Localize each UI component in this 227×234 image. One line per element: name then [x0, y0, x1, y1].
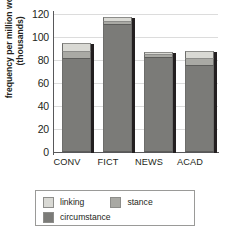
legend-label-linking: linking: [60, 197, 84, 207]
bar-conv-seg-circumstance: [62, 58, 91, 152]
legend-item-linking[interactable]: linking: [43, 197, 84, 208]
y-tick-100: 100: [18, 32, 49, 42]
bar-acad-shadow: [214, 52, 217, 153]
legend-item-stance[interactable]: stance: [110, 197, 152, 208]
y-tick-120: 120: [18, 9, 49, 19]
bar-news[interactable]: [144, 52, 173, 152]
bar-conv[interactable]: [62, 43, 91, 152]
bar-news-shadow: [173, 53, 176, 153]
bar-acad-seg-circumstance: [185, 65, 214, 152]
bar-conv-shadow: [91, 44, 94, 153]
bar-acad-seg-linking: [185, 51, 214, 58]
legend-swatch-linking: [43, 197, 54, 208]
y-tick-60: 60: [18, 78, 49, 88]
y-tick-80: 80: [18, 55, 49, 65]
bar-acad-seg-stance: [185, 58, 214, 65]
legend-swatch-circumstance: [43, 212, 54, 223]
bar-news-seg-circumstance: [144, 57, 173, 153]
y-tick-40: 40: [18, 101, 49, 111]
legend-label-stance: stance: [127, 197, 152, 207]
legend-label-circumstance: circumstance: [60, 212, 111, 222]
legend-swatch-stance: [110, 197, 121, 208]
y-tick-20: 20: [18, 124, 49, 134]
chart-figure: frequency per million words (thousands) …: [0, 0, 227, 234]
bar-fict-seg-circumstance: [103, 24, 132, 152]
plot-area: [54, 14, 218, 152]
chart-legend: linking stance circumstance: [35, 190, 195, 226]
legend-row-bottom: circumstance: [43, 210, 111, 224]
legend-item-circumstance[interactable]: circumstance: [43, 212, 111, 223]
bar-fict-shadow: [132, 18, 135, 153]
bar-acad[interactable]: [185, 51, 214, 152]
bar-fict[interactable]: [103, 17, 132, 152]
x-axis-line: [53, 152, 219, 153]
bar-conv-seg-stance: [62, 51, 91, 58]
legend-row-top: linking stance: [43, 195, 153, 209]
gridline-100: [54, 37, 218, 38]
gridline-120: [54, 14, 218, 15]
x-tick-acad: ACAD: [162, 157, 218, 168]
bar-conv-seg-linking: [62, 43, 91, 51]
y-tick-0: 0: [18, 147, 49, 157]
